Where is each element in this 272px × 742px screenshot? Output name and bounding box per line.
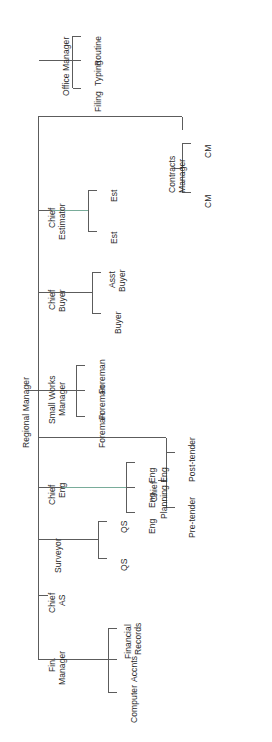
node-label-surveyor: Surveyor <box>54 538 64 573</box>
node-label-chief-planning-eng-line2: Planning Eng <box>160 467 170 519</box>
node-label-cm-1: CM <box>204 145 214 158</box>
node-label-pre-tender: Pre-tender <box>188 497 198 538</box>
node-label-post-tender: Post-tender <box>188 437 198 482</box>
node-label-eng-3: Eng <box>148 468 158 483</box>
node-label-chief-as-line2: AS <box>58 594 68 606</box>
node-label-cm-2: CM <box>204 195 214 208</box>
node-label-office-manager: Office Manager <box>62 37 72 96</box>
node-label-chief-eng-line2: Eng <box>58 483 68 498</box>
node-label-asst-buyer-line2: Buyer <box>118 269 128 292</box>
node-label-qs-2: QS <box>120 559 130 571</box>
node-label-small-works-manager-line2: Manager <box>58 382 68 416</box>
node-label-est-1: Est <box>110 189 120 202</box>
node-label-foreman-3: Foreman <box>98 359 108 394</box>
node-label-chief-buyer-line2: Buyer <box>58 289 68 312</box>
node-label-eng-1: Eng <box>148 519 158 534</box>
node-label-financial-records-line2: Records <box>134 623 144 655</box>
node-label-regional-manager: Regional Manager <box>22 377 32 448</box>
node-label-contracts-manager-line2: Manager <box>178 159 188 193</box>
node-label-accnts: Accnts <box>130 656 140 682</box>
node-label-eng-2: Eng <box>148 493 158 508</box>
node-label-chief-estimator-line2: Estimator <box>58 203 68 240</box>
node-label-est-2: Est <box>110 231 120 244</box>
node-label-buyer: Buyer <box>114 311 124 334</box>
node-label-fin-manager-line2: Manager <box>58 651 68 685</box>
org-chart: Regional Manager Office Manager Filing T… <box>0 0 272 742</box>
node-label-filing: Filing <box>94 91 104 112</box>
node-label-qs-1: QS <box>120 521 130 533</box>
node-label-computer: Computer <box>130 685 140 723</box>
node-label-routine: Routine <box>94 36 104 66</box>
